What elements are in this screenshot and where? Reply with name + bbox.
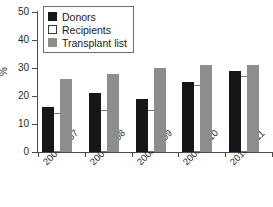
- y-tick-label: 50: [0, 6, 29, 17]
- y-tick-label: 30: [0, 62, 29, 73]
- legend-item: Transplant list: [48, 36, 127, 49]
- y-tick-label: 10: [0, 118, 29, 129]
- bar-transplant-list: [247, 65, 259, 152]
- x-tick-mark: [272, 152, 273, 157]
- legend: Donors Recipients Transplant list: [43, 6, 134, 53]
- y-tick-mark: [32, 68, 37, 69]
- x-tick-mark: [225, 152, 226, 157]
- legend-swatch-donors-icon: [48, 12, 57, 21]
- y-tick-label: 20: [0, 90, 29, 101]
- bar-donors: [136, 99, 148, 152]
- legend-item: Donors: [48, 10, 127, 23]
- y-tick-mark: [32, 96, 37, 97]
- x-tick-mark: [178, 152, 179, 157]
- y-tick-mark: [32, 40, 37, 41]
- bar-transplant-list: [60, 79, 72, 152]
- bar-donors: [89, 93, 101, 152]
- y-axis-line: [37, 11, 38, 153]
- y-tick-mark: [32, 12, 37, 13]
- bar-transplant-list: [107, 74, 119, 152]
- x-tick-mark: [132, 152, 133, 157]
- x-tick-mark: [38, 152, 39, 157]
- y-tick-label: 40: [0, 34, 29, 45]
- legend-item: Recipients: [48, 23, 127, 36]
- x-tick-mark: [85, 152, 86, 157]
- y-tick-label: 0: [0, 146, 29, 157]
- bar-transplant-list: [154, 68, 166, 152]
- legend-swatch-recipients-icon: [48, 25, 57, 34]
- bar-donors: [182, 82, 194, 152]
- bar-donors: [42, 107, 54, 152]
- y-tick-mark: [32, 152, 37, 153]
- bar-donors: [229, 71, 241, 152]
- legend-label-transplant-list: Transplant list: [62, 37, 127, 49]
- y-tick-mark: [32, 124, 37, 125]
- legend-label-donors: Donors: [62, 11, 96, 23]
- legend-swatch-transplant-list-icon: [48, 38, 57, 47]
- bar-transplant-list: [200, 65, 212, 152]
- bar-chart: % 01020304050 2006-20072007-20082008-200…: [0, 0, 273, 207]
- legend-label-recipients: Recipients: [62, 24, 111, 36]
